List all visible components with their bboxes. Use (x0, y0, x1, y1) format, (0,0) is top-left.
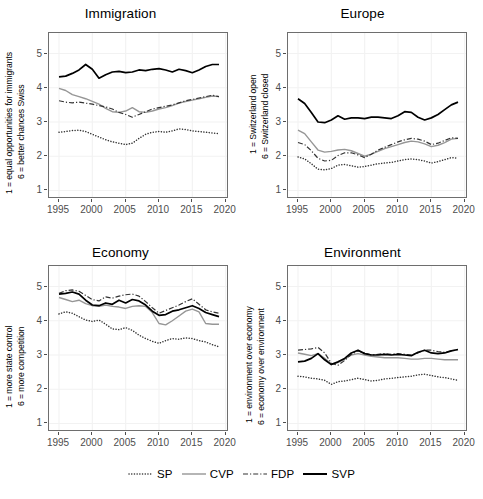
y-tick-mark (283, 388, 286, 389)
x-tick-mark (158, 199, 159, 202)
series-line-cvp (59, 88, 219, 112)
y-tick-label: 5 (267, 47, 281, 58)
y-tick-label: 5 (267, 280, 281, 291)
legend-line-icon-svp (302, 469, 328, 479)
y-tick-mark (283, 155, 286, 156)
x-tick-mark (464, 199, 465, 202)
x-tick-label: 2010 (147, 437, 169, 448)
y-tick-mark (283, 53, 286, 54)
x-tick-label: 2000 (80, 204, 102, 215)
y-axis-label-europe: 1 = Switzerland open (248, 75, 258, 155)
y-tick-mark (44, 388, 47, 389)
panel-title-europe: Europe (242, 6, 483, 21)
series-line-sp (298, 374, 458, 384)
series-line-cvp (298, 130, 458, 156)
x-tick-mark (58, 199, 59, 202)
x-tick-mark (330, 432, 331, 435)
y-tick-mark (283, 87, 286, 88)
legend-item-sp[interactable]: SP (128, 467, 173, 480)
plot-area-immigration (48, 32, 228, 198)
y-tick-label: 1 (28, 184, 42, 195)
x-tick-label: 2000 (80, 437, 102, 448)
y-tick-mark (44, 189, 47, 190)
legend: SPCVPFDPSVP (0, 467, 483, 480)
legend-item-svp[interactable]: SVP (302, 467, 355, 480)
legend-label: FDP (271, 468, 295, 480)
legend-label: CVP (210, 468, 234, 480)
y-tick-mark (44, 286, 47, 287)
x-tick-label: 2015 (419, 437, 441, 448)
x-tick-label: 1995 (286, 204, 308, 215)
y-tick-label: 3 (28, 115, 42, 126)
y-tick-label: 1 (267, 417, 281, 428)
series-line-fdp (298, 138, 458, 161)
x-tick-mark (125, 432, 126, 435)
x-tick-label: 2010 (147, 204, 169, 215)
y-tick-label: 5 (28, 47, 42, 58)
y-axis-label-economy-2: 6 = more competition (16, 327, 26, 407)
y-tick-label: 1 (267, 184, 281, 195)
y-tick-mark (283, 121, 286, 122)
y-tick-label: 2 (267, 150, 281, 161)
x-tick-label: 2000 (319, 204, 341, 215)
y-axis-label-environment: 1 = environment over economy (244, 306, 254, 423)
x-tick-mark (364, 432, 365, 435)
y-tick-mark (283, 422, 286, 423)
y-tick-mark (283, 354, 286, 355)
legend-item-fdp[interactable]: FDP (242, 467, 295, 480)
x-tick-label: 2005 (114, 204, 136, 215)
x-tick-label: 2020 (214, 204, 236, 215)
x-tick-mark (225, 432, 226, 435)
x-tick-label: 2005 (353, 204, 375, 215)
y-tick-mark (283, 286, 286, 287)
x-tick-label: 2020 (453, 204, 475, 215)
y-tick-mark (44, 354, 47, 355)
x-tick-mark (158, 432, 159, 435)
data-series-group (49, 33, 228, 198)
legend-line-icon-fdp (242, 469, 268, 479)
y-tick-label: 4 (28, 314, 42, 325)
x-tick-mark (330, 199, 331, 202)
x-tick-label: 2015 (419, 204, 441, 215)
x-tick-mark (430, 199, 431, 202)
y-tick-mark (44, 53, 47, 54)
x-tick-label: 2015 (180, 204, 202, 215)
y-tick-mark (44, 422, 47, 423)
series-line-sp (59, 312, 219, 347)
plot-area-europe (287, 32, 467, 198)
legend-line-icon-sp (128, 469, 154, 479)
data-series-group (288, 266, 467, 431)
x-tick-mark (225, 199, 226, 202)
y-axis-label-economy: 1 = more state control (4, 326, 14, 408)
x-tick-mark (464, 432, 465, 435)
x-tick-label: 2020 (214, 437, 236, 448)
legend-line-icon-cvp (181, 469, 207, 479)
y-tick-label: 4 (267, 81, 281, 92)
y-tick-mark (283, 320, 286, 321)
y-tick-label: 3 (267, 115, 281, 126)
x-tick-mark (397, 199, 398, 202)
legend-item-cvp[interactable]: CVP (181, 467, 234, 480)
y-tick-mark (44, 155, 47, 156)
y-tick-label: 2 (267, 383, 281, 394)
x-tick-mark (58, 432, 59, 435)
figure-root: Immigration 1 = equal opportunities for … (0, 0, 483, 499)
x-tick-label: 1995 (286, 437, 308, 448)
x-tick-mark (91, 199, 92, 202)
y-axis-label-immigration-2: 6 = better chances Swiss (16, 84, 26, 179)
panel-environment: Environment 1 = environment over economy… (242, 243, 483, 458)
y-tick-label: 2 (28, 383, 42, 394)
y-tick-label: 4 (28, 81, 42, 92)
y-tick-label: 3 (28, 348, 42, 359)
y-tick-mark (44, 87, 47, 88)
x-tick-label: 2010 (386, 204, 408, 215)
y-tick-label: 1 (28, 417, 42, 428)
series-line-svp (59, 64, 219, 78)
panel-economy: Economy 1 = more state control 6 = more … (0, 243, 241, 458)
x-tick-mark (125, 199, 126, 202)
x-tick-mark (191, 432, 192, 435)
legend-label: SVP (331, 468, 355, 480)
x-tick-label: 2010 (386, 437, 408, 448)
series-line-sp (298, 157, 458, 170)
x-tick-label: 1995 (47, 204, 69, 215)
